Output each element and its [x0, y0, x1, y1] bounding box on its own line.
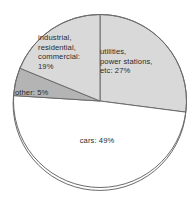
- pie-label-cars: cars: 49%: [62, 136, 132, 146]
- pie-label-utilities-power-stations: utilities, power stations, etc: 27%: [100, 47, 174, 76]
- pie-label-industrial-residential-commercial: industrial, residential, commercial: 19%: [38, 33, 96, 71]
- pie-chart-graphic: [0, 0, 192, 201]
- pie-chart: utilities, power stations, etc: 27% cars…: [0, 0, 192, 201]
- pie-label-other: other: 5%: [15, 88, 73, 98]
